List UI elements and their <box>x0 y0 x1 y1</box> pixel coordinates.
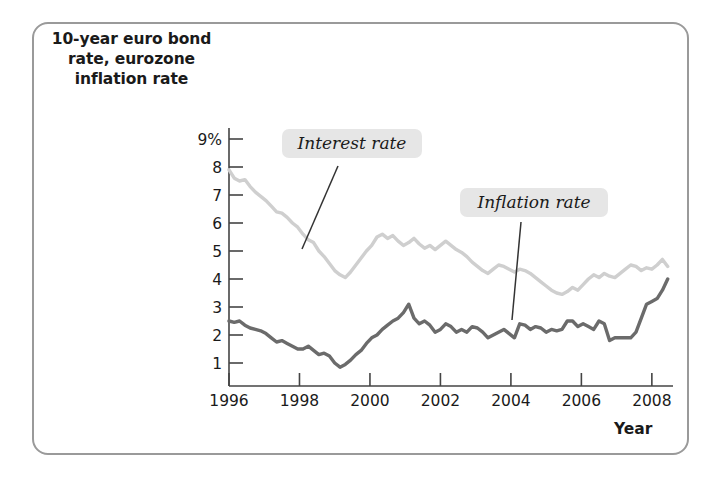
y-tick-label-7: 7 <box>212 187 222 205</box>
x-axis-title: Year <box>614 420 652 438</box>
x-tick-label-2000: 2000 <box>350 392 389 410</box>
series-line-inflation-rate <box>229 279 668 367</box>
figure-root: 10-year euro bond rate, eurozone inflati… <box>0 0 713 477</box>
inflation-rate-callout-label: Inflation rate <box>476 192 590 212</box>
x-tick-label-2002: 2002 <box>421 392 460 410</box>
interest-rate-callout-label: Interest rate <box>297 133 407 153</box>
y-tick-label-3: 3 <box>212 299 222 317</box>
x-tick-label-2006: 2006 <box>562 392 601 410</box>
x-tick-label-1998: 1998 <box>280 392 319 410</box>
y-tick-label-5: 5 <box>212 243 222 261</box>
y-tick-label-2: 2 <box>212 327 222 345</box>
x-tick-label-2008: 2008 <box>632 392 671 410</box>
y-tick-label-8: 8 <box>212 159 222 177</box>
y-tick-label-9%: 9% <box>197 131 222 149</box>
y-tick-label-1: 1 <box>212 355 222 373</box>
callout-labels: Interest rate Inflation rate <box>282 129 608 217</box>
y-tick-label-6: 6 <box>212 215 222 233</box>
y-tick-label-4: 4 <box>212 271 222 289</box>
x-axis-ticks: 1996199820002002200420062008 <box>209 373 671 410</box>
interest-rate-leader-line <box>302 166 338 249</box>
y-axis-ticks: 123456789% <box>197 131 243 373</box>
line-chart-plot: 123456789% 1996199820002002200420062008 … <box>0 0 713 477</box>
x-tick-label-2004: 2004 <box>491 392 530 410</box>
x-tick-label-1996: 1996 <box>209 392 248 410</box>
